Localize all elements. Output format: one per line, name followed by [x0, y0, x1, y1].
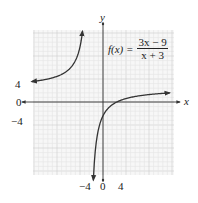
y-tick-label-0: 0: [16, 97, 22, 108]
function-formula: f(x) = 3x − 9 x + 3: [108, 36, 168, 61]
y-tick-label-neg4: −4: [11, 116, 23, 127]
graph-canvas: [0, 0, 198, 203]
x-tick-label-0: 0: [100, 181, 106, 192]
numerator: 3x − 9: [137, 36, 167, 49]
y-axis-label: y: [100, 12, 105, 23]
fraction: 3x − 9 x + 3: [137, 36, 167, 61]
y-tick-label-4: 4: [15, 79, 21, 90]
x-axis-label: x: [184, 96, 189, 107]
x-tick-label-4: 4: [118, 181, 124, 192]
function-name: f(x) =: [108, 43, 133, 55]
denominator: x + 3: [141, 49, 164, 61]
x-tick-label-neg4: −4: [79, 181, 91, 192]
